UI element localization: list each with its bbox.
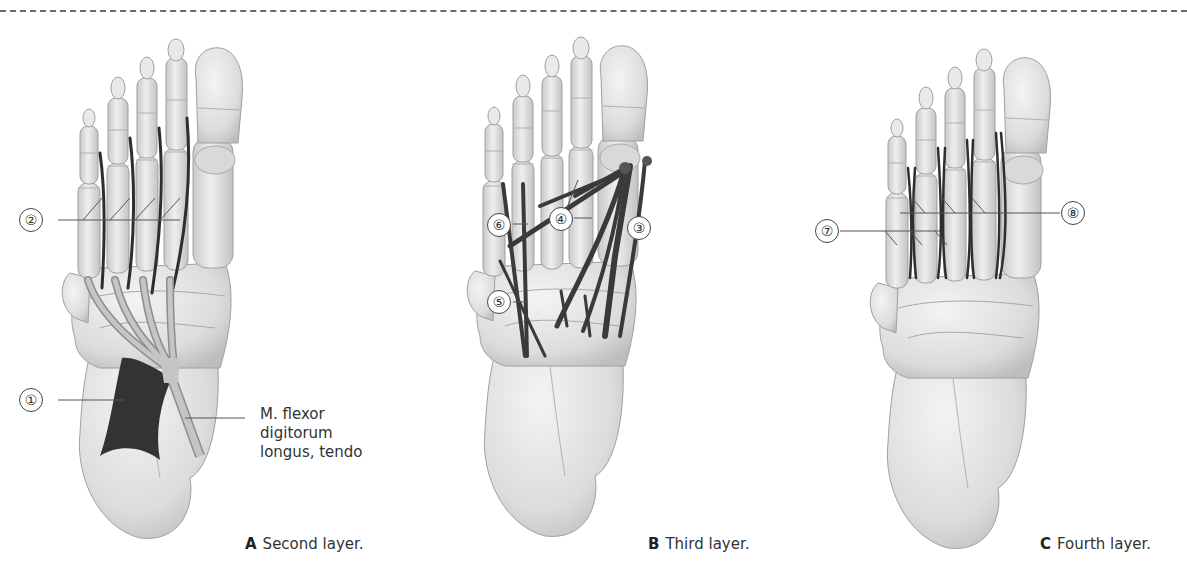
- caption-letter: C: [1040, 535, 1051, 553]
- label-4-adductor-hallucis: ④: [549, 207, 573, 231]
- label-6-flexor-digiti-minimi: ⑥: [487, 213, 511, 237]
- caption-letter: A: [245, 535, 257, 553]
- term-flexor-digitorum-longus-tendon: M. flexor digitorum longus, tendo: [260, 405, 363, 462]
- caption-panel-c: CFourth layer.: [1040, 535, 1151, 553]
- label-5-opponens-digiti-minimi: ⑤: [487, 290, 511, 314]
- term-line: longus, tendo: [260, 443, 363, 462]
- term-line: digitorum: [260, 424, 363, 443]
- caption-panel-b: BThird layer.: [648, 535, 750, 553]
- foot-illustrations: [0, 0, 1187, 572]
- caption-text: Third layer.: [665, 535, 749, 553]
- foot-a-illustration: [62, 39, 242, 538]
- foot-c-illustration: [870, 49, 1050, 548]
- caption-text: Fourth layer.: [1057, 535, 1151, 553]
- label-2-lumbricals: ②: [19, 208, 43, 232]
- label-7-plantar-interossei: ⑦: [815, 219, 839, 243]
- term-line: M. flexor: [260, 405, 363, 424]
- label-1-quadratus-plantae: ①: [19, 388, 43, 412]
- caption-panel-a: ASecond layer.: [245, 535, 364, 553]
- foot-b-illustration: [467, 37, 652, 536]
- caption-text: Second layer.: [263, 535, 364, 553]
- label-8-dorsal-interossei: ⑧: [1061, 201, 1085, 225]
- caption-letter: B: [648, 535, 659, 553]
- label-3-flexor-hallucis-brevis: ③: [627, 216, 651, 240]
